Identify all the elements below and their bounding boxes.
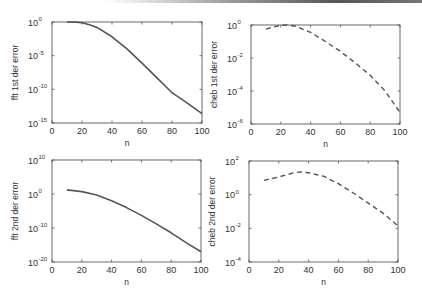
x-axis-label: n [323,139,328,149]
x-tick-label: 60 [137,126,147,136]
x-tick-label: 0 [49,265,54,275]
y-tick-label: 10 [28,51,38,61]
y-tick-label: 10 [227,54,237,64]
x-tick-label: 20 [274,265,284,275]
y-tick-label: 10 [225,224,235,234]
y-tick-label: 10 [225,157,235,167]
x-tick-label: 20 [77,265,87,275]
x-tick-label: 80 [363,265,373,275]
axes-box [251,25,400,124]
y-tick-label: 10 [28,119,38,129]
x-tick-label: 60 [335,127,345,137]
x-axis-label: n [124,277,129,287]
y-tick-label: 10 [28,258,38,268]
y-tick-exponent: 0 [39,16,43,22]
y-tick-label: 10 [28,156,38,166]
y-tick-label: 10 [28,85,38,95]
x-tick-label: 40 [306,127,316,137]
series-line [67,22,202,114]
y-tick-exponent: -2 [238,52,244,58]
axes-box [52,22,202,123]
x-tick-label: 80 [167,126,177,136]
series-line [67,190,201,252]
y-tick-exponent: -4 [238,85,244,91]
x-tick-label: 20 [77,126,87,136]
y-tick-label: 10 [227,21,237,31]
y-tick-label: 10 [28,224,38,234]
y-tick-exponent: -10 [39,83,48,89]
series-line [266,25,400,113]
x-tick-label: 100 [392,127,407,137]
y-tick-exponent: -4 [236,256,242,262]
subplot-fft1: 02040608010010010-510-1010-15nfft 1st de… [10,16,210,148]
y-tick-exponent: -10 [39,222,48,228]
axes-box [52,160,201,262]
x-tick-label: 100 [194,126,209,136]
x-tick-label: 0 [49,126,54,136]
x-tick-label: 100 [193,265,208,275]
x-tick-label: 20 [276,127,286,137]
y-tick-exponent: -6 [238,118,244,124]
y-tick-label: 10 [225,258,235,268]
x-tick-label: 60 [136,265,146,275]
subplot-cheb1: 02040608010010010-210-410-6ncheb 1st der… [209,19,408,149]
y-axis-label: cheb 1st der error [209,41,219,108]
y-tick-exponent: -5 [39,50,45,56]
y-tick-exponent: 2 [236,155,240,161]
y-axis-label: fft 2nd der error [10,182,20,241]
x-tick-label: 0 [246,265,251,275]
y-tick-label: 10 [227,87,237,97]
figure-canvas: 02040608010010010-510-1010-15nfft 1st de… [0,0,422,292]
subplot-cheb2: 02040608010010210010-210-4ncheb 2nd der … [207,155,406,287]
y-tick-label: 10 [225,190,235,200]
y-tick-label: 10 [227,120,237,130]
x-tick-label: 100 [390,265,405,275]
x-axis-label: n [125,138,130,148]
x-tick-label: 80 [166,265,176,275]
x-tick-label: 40 [107,265,117,275]
x-tick-label: 40 [304,265,314,275]
y-tick-exponent: -20 [39,256,48,262]
y-tick-exponent: 0 [236,189,240,195]
y-tick-exponent: 0 [238,19,242,25]
subplot-fft2: 020406080100101010010-1010-20nfft 2nd de… [10,154,209,287]
y-tick-exponent: 10 [39,154,46,160]
x-axis-label: n [321,277,326,287]
y-tick-exponent: -15 [39,117,48,123]
y-tick-label: 10 [28,190,38,200]
y-axis-label: cheb 2nd der error [207,176,217,246]
x-tick-label: 60 [333,265,343,275]
y-tick-exponent: -2 [236,222,242,228]
x-tick-label: 80 [365,127,375,137]
x-tick-label: 0 [248,127,253,137]
y-axis-label: fft 1st der error [10,45,20,101]
y-tick-exponent: 0 [39,188,43,194]
y-tick-label: 10 [28,18,38,28]
series-line [264,172,398,226]
x-tick-label: 40 [107,126,117,136]
